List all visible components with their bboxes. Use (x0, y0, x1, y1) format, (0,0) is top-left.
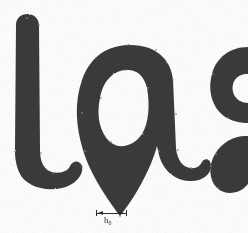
dimension-label-subscript: 0 (109, 220, 112, 226)
specimen-canvas: h0 (0, 0, 248, 233)
dimension-label: h0 (104, 216, 112, 226)
dimension-annotation (0, 0, 248, 233)
